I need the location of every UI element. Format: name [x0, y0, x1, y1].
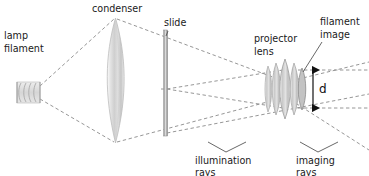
filament-image-label-line1: filament — [320, 16, 360, 27]
imaging-rays-label-line2: rays — [296, 167, 317, 176]
lamp-filament — [17, 82, 40, 103]
leader-filament-image — [303, 42, 322, 72]
illumination-rays-label-line1: illumination — [195, 155, 251, 166]
leader-imaging — [300, 142, 338, 152]
projector-lens-label-line1: projector — [254, 33, 297, 44]
illumination-ray-upper-exit — [286, 62, 369, 82]
condenser-label: condenser — [92, 3, 142, 14]
illumination-ray-lower-out — [117, 97, 286, 142]
projector-lens-element-4 — [290, 63, 298, 115]
dimension-d-label: d — [319, 82, 327, 96]
leader-lines — [166, 31, 338, 152]
condenser-lens — [107, 18, 124, 143]
projector-lens-element-2 — [272, 63, 280, 115]
illumination-ray-lower-exit — [286, 97, 369, 150]
imaging-ray-bundle — [161, 70, 369, 133]
optics-diagram-figure: d lamp filament condenser slide projecto… — [0, 0, 369, 176]
diagram-canvas: d lamp filament condenser slide projecto… — [0, 0, 369, 176]
filament-image-label-line2: image — [320, 29, 350, 40]
filament-image — [298, 68, 306, 110]
imaging-rays-label-line1: imaging — [296, 155, 335, 166]
projector-lens-element-3 — [280, 59, 291, 119]
illumination-rays-label-line2: rays — [195, 167, 216, 176]
lamp-filament-label-line2: filament — [4, 43, 44, 54]
illumination-ray-upper-in — [40, 19, 114, 86]
leader-illumination — [208, 142, 246, 152]
slide-label: slide — [164, 17, 186, 28]
projector-lens-label-line2: lens — [254, 46, 274, 57]
lamp-filament-label-line1: lamp — [4, 30, 28, 41]
slide — [164, 30, 168, 136]
projector-lens-group — [265, 59, 306, 119]
illumination-ray-lower-in — [40, 99, 114, 142]
projector-lens-element-1 — [265, 66, 272, 112]
